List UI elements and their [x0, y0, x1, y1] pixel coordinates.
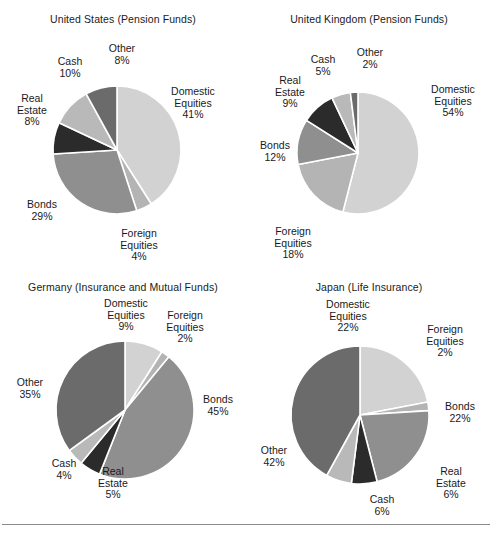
slice-label-jp-domestic-equities: Domestic Equities 22% [308, 299, 388, 334]
slice-label-us-other: Other 8% [92, 43, 152, 66]
slice-label-us-cash: Cash 10% [40, 56, 100, 79]
slice-label-uk-domestic-equities: Domestic Equities 54% [414, 84, 492, 119]
slice-label-uk-real-estate: Real Estate 9% [260, 75, 320, 110]
chart-panel-us: United States (Pension Funds) Domestic E… [0, 0, 246, 267]
slice-label-uk-bonds: Bonds 12% [246, 140, 304, 163]
slice-label-de-foreign-equities: Foreign Equities 2% [146, 310, 224, 345]
slice-label-us-foreign-equities: Foreign Equities 4% [100, 228, 178, 263]
slice-label-jp-cash: Cash 6% [354, 494, 410, 517]
chart-panel-jp: Japan (Life Insurance) Domestic Equities… [246, 267, 492, 534]
slice-label-us-real-estate: Real Estate 8% [2, 93, 62, 128]
slice-label-de-cash: Cash 4% [36, 458, 92, 481]
slice-label-jp-real-estate: Real Estate 6% [422, 466, 480, 501]
slice-label-jp-foreign-equities: Foreign Equities 2% [406, 324, 484, 359]
slice-label-jp-bonds: Bonds 22% [432, 401, 488, 424]
slice-label-us-bonds: Bonds 29% [12, 199, 72, 222]
slice-label-uk-other: Other 2% [342, 47, 398, 70]
slice-label-us-domestic-equities: Domestic Equities 41% [148, 86, 238, 121]
slice-label-de-bonds: Bonds 45% [190, 394, 246, 417]
slice-label-de-real-estate: Real Estate 5% [84, 466, 142, 501]
slice-label-uk-foreign-equities: Foreign Equities 18% [254, 226, 332, 261]
chart-panel-uk: United Kingdom (Pension Funds) Domestic … [246, 0, 492, 267]
slice-label-de-other: Other 35% [2, 377, 58, 400]
slice-label-jp-other: Other 42% [246, 445, 302, 468]
bottom-divider-rule [2, 524, 490, 525]
chart-panel-de: Germany (Insurance and Mutual Funds) Dom… [0, 267, 246, 534]
pie-chart-figure: United States (Pension Funds) Domestic E… [0, 0, 492, 535]
